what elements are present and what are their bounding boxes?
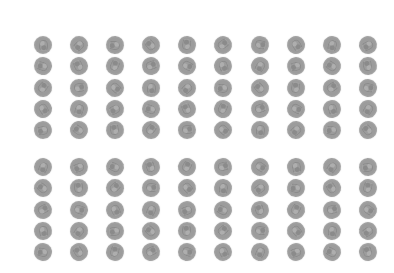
coin-icon	[103, 155, 127, 179]
coin-icon	[247, 75, 272, 100]
coin-icon	[103, 198, 127, 222]
coin-icon	[66, 32, 91, 57]
coin-icon	[140, 156, 162, 178]
coin-icon	[357, 177, 379, 199]
coin-icon	[284, 241, 307, 264]
coin-icon	[66, 118, 91, 143]
coin-icon	[178, 121, 197, 140]
coin-icon	[212, 55, 234, 77]
coin-icon	[67, 54, 91, 78]
coin-icon	[103, 97, 127, 121]
coin-icon	[139, 240, 163, 264]
coin-icon	[70, 179, 88, 197]
coin-grid-bottom	[34, 158, 377, 261]
coin-icon	[285, 56, 306, 77]
coin-icon	[142, 179, 161, 198]
coin-icon	[34, 36, 52, 54]
coin-icon	[31, 155, 55, 179]
coin-icon	[283, 218, 308, 243]
coin-icon	[102, 176, 127, 201]
coin-icon	[67, 240, 92, 265]
coin-icon	[319, 54, 344, 79]
coin-icon	[140, 55, 163, 78]
coin-icon	[283, 197, 308, 222]
coin-icon	[211, 32, 236, 57]
coin-icon	[106, 221, 125, 240]
coin-icon	[175, 54, 199, 78]
coin-icon	[175, 155, 200, 180]
coin-icon	[249, 199, 271, 221]
coin-icon	[139, 218, 164, 243]
coin-icon	[247, 154, 272, 179]
coin-icon	[319, 176, 344, 201]
coin-icon	[68, 98, 90, 120]
coin-icon	[176, 198, 199, 221]
coin-icon	[175, 75, 200, 100]
coin-icon	[33, 221, 53, 241]
coin-icon	[213, 178, 233, 198]
coin-icon	[285, 77, 306, 98]
coin-icon	[177, 35, 197, 55]
coin-icon	[176, 241, 199, 264]
coin-icon	[211, 117, 236, 142]
coin-icon	[106, 35, 125, 54]
coin-icon	[139, 32, 164, 57]
coin-icon	[285, 178, 306, 199]
coin-icon	[249, 34, 270, 55]
coin-icon	[103, 54, 127, 78]
coin-icon	[250, 121, 269, 140]
coin-icon	[212, 240, 235, 263]
coin-icon	[30, 176, 55, 201]
coin-icon	[211, 197, 235, 221]
coin-icon	[320, 240, 344, 264]
coin-icon	[102, 75, 127, 100]
coin-icon	[355, 118, 380, 143]
coin-icon	[322, 120, 342, 140]
coin-icon	[175, 176, 200, 201]
coin-icon	[247, 54, 272, 79]
coin-icon	[283, 117, 308, 142]
coin-icon	[321, 98, 343, 120]
coin-icon	[66, 218, 91, 243]
coin-icon	[105, 120, 125, 140]
coin-icon	[31, 55, 54, 78]
coin-icon	[283, 33, 308, 58]
coin-icon	[355, 197, 380, 222]
coin-icon	[285, 157, 305, 177]
coin-icon	[319, 154, 344, 179]
coin-icon	[321, 34, 343, 56]
coin-icon	[139, 117, 164, 142]
coin-icon	[358, 56, 378, 76]
coin-icon	[104, 241, 126, 263]
coin-icon	[212, 97, 236, 121]
coin-icon	[178, 222, 196, 240]
coin-icon	[248, 98, 271, 121]
coin-icon	[139, 198, 163, 222]
coin-icon	[248, 240, 272, 264]
coin-icon	[247, 176, 272, 201]
coin-icon	[211, 218, 236, 243]
coin-icon	[319, 75, 344, 100]
coin-icon	[357, 241, 379, 263]
coin-icon	[31, 97, 56, 122]
coin-icon	[283, 97, 307, 121]
coin-icon	[358, 157, 377, 176]
coin-icon	[357, 77, 379, 99]
coin-icon	[33, 120, 54, 141]
coin-icon	[355, 96, 380, 121]
coin-icon	[32, 241, 54, 263]
coin-icon	[321, 199, 342, 220]
coin-icon	[176, 97, 199, 120]
coin-icon	[250, 221, 270, 241]
coin-icon	[355, 218, 380, 243]
coin-icon	[213, 156, 234, 177]
coin-icon	[70, 78, 89, 97]
coin-icon	[140, 97, 163, 120]
coin-grid-top	[34, 36, 377, 139]
coin-icon	[31, 197, 55, 221]
coin-icon	[356, 33, 380, 57]
coin-icon	[68, 155, 91, 178]
coin-icon	[68, 198, 91, 221]
coin-icon	[30, 75, 55, 100]
coin-icon	[142, 78, 160, 96]
